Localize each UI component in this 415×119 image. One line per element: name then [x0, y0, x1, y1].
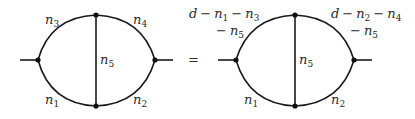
- rhs-diagram: d−n1−n3 −n5 d−n2−n4 −n5 n5 n1 n2: [189, 6, 402, 109]
- lhs-diagram: n3 n4 n5 n1 n2: [20, 12, 173, 109]
- label-n3: n3: [45, 12, 59, 29]
- label-n5: n5: [299, 52, 313, 69]
- label-n4: n4: [133, 12, 147, 29]
- label-n5: n5: [100, 52, 114, 69]
- vertex-left: [233, 57, 238, 62]
- vertex-right: [351, 57, 356, 62]
- label-n1: n1: [45, 92, 59, 109]
- propagator-top-left: [236, 15, 295, 60]
- label-n1: n1: [244, 92, 258, 109]
- label-n2: n2: [133, 92, 147, 109]
- vertex-right: [152, 57, 157, 62]
- label-top-left-line2: −n5: [216, 23, 244, 40]
- feynman-diagram-equation: n3 n4 n5 n1 n2 = d−n1−n3 −n5 d−n2−n4 −n5…: [0, 0, 415, 119]
- vertex-left: [35, 57, 40, 62]
- label-n2: n2: [331, 92, 345, 109]
- vertex-top: [93, 12, 98, 17]
- label-top-left-line1: d−n1−n3: [189, 6, 260, 23]
- label-top-right-line1: d−n2−n4: [331, 6, 402, 23]
- vertex-bottom: [93, 103, 98, 108]
- equals-sign: =: [188, 52, 199, 67]
- label-top-right-line2: −n5: [350, 23, 378, 40]
- vertex-top: [292, 12, 297, 17]
- vertex-bottom: [292, 103, 297, 108]
